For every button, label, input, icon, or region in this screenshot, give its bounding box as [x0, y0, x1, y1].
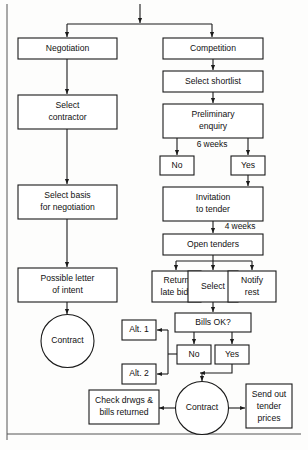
node-yes-bills-label: Yes [225, 349, 239, 359]
edge-bills-ok-split [194, 332, 232, 344]
node-check-drwgs: Check drwgs & bills returned [89, 390, 159, 424]
node-preliminary-enquiry: Preliminary enquiry [163, 104, 263, 138]
node-select-contractor-line2: contractor [48, 112, 86, 122]
node-no-preliminary-label: No [172, 160, 183, 170]
node-notify-rest-line1: Notify [241, 275, 264, 285]
node-negotiation: Negotiation [18, 38, 117, 59]
node-yes-bills: Yes [215, 345, 249, 364]
node-return-late-line1: Return [164, 275, 190, 285]
node-select-basis: Select basis for negotiation [18, 185, 117, 219]
node-yes-preliminary-label: Yes [241, 160, 255, 170]
node-select-shortlist-label: Select shortlist [185, 76, 241, 86]
edge-yes-bills-to-contract [200, 364, 232, 381]
node-contract-right-label: Contract [186, 402, 219, 412]
node-open-tenders-label: Open tenders [187, 239, 239, 249]
node-possible-letter-line2: of intent [52, 285, 83, 295]
node-select-contractor-line1: Select [56, 100, 80, 110]
edge-no-bills-to-alternatives [157, 330, 177, 374]
node-send-out-line3: prices [258, 413, 281, 423]
node-invitation-to-tender: Invitation to tender [163, 187, 263, 221]
node-alt-1: Alt. 1 [122, 320, 156, 340]
node-contract-left-label: Contract [51, 335, 84, 345]
node-bills-ok-label: Bills OK? [195, 317, 231, 327]
flowchart-diagram: Negotiation Select contractor Select bas… [0, 0, 308, 450]
node-no-bills-label: No [189, 349, 200, 359]
node-send-out-tender-prices: Send out tender prices [246, 384, 292, 428]
node-competition: Competition [163, 38, 263, 59]
node-yes-preliminary: Yes [231, 156, 265, 175]
node-open-tenders: Open tenders [163, 234, 263, 255]
node-no-bills: No [177, 345, 211, 364]
edge-label-six-weeks: 6 weeks [197, 139, 228, 149]
node-negotiation-label: Negotiation [46, 43, 90, 53]
node-select-basis-line2: for negotiation [40, 202, 95, 212]
node-invitation-line1: Invitation [196, 192, 231, 202]
edge-entry-to-split [67, 4, 212, 37]
node-select-contractor: Select contractor [18, 95, 117, 129]
node-notify-rest: Notify rest [228, 271, 276, 302]
node-contract-left: Contract [41, 315, 94, 368]
node-alt-2-label: Alt. 2 [129, 368, 149, 378]
node-alt-1-label: Alt. 1 [129, 324, 149, 334]
node-bills-ok: Bills OK? [175, 313, 251, 332]
node-competition-label: Competition [190, 43, 236, 53]
node-check-drwgs-line2: bills returned [99, 407, 148, 417]
node-possible-letter-line1: Possible letter [41, 273, 95, 283]
node-possible-letter: Possible letter of intent [18, 268, 117, 302]
node-send-out-line1: Send out [252, 389, 287, 399]
node-contract-right: Contract [176, 382, 229, 435]
node-alt-2: Alt. 2 [122, 364, 156, 384]
node-select-basis-line1: Select basis [44, 190, 90, 200]
node-invitation-line2: to tender [196, 204, 230, 214]
edge-open-tenders-split [176, 255, 252, 270]
node-select-shortlist: Select shortlist [163, 71, 263, 92]
flowchart-canvas: Negotiation Select contractor Select bas… [0, 0, 308, 450]
node-notify-rest-line2: rest [245, 287, 260, 297]
node-select-bid-label: Select [201, 281, 225, 291]
edge-label-four-weeks: 4 weeks [225, 221, 256, 231]
node-send-out-line2: tender [257, 401, 282, 411]
node-preliminary-line2: enquiry [199, 121, 228, 131]
node-check-drwgs-line1: Check drwgs & [95, 395, 153, 405]
node-no-preliminary: No [160, 156, 194, 175]
node-preliminary-line1: Preliminary [192, 109, 236, 119]
